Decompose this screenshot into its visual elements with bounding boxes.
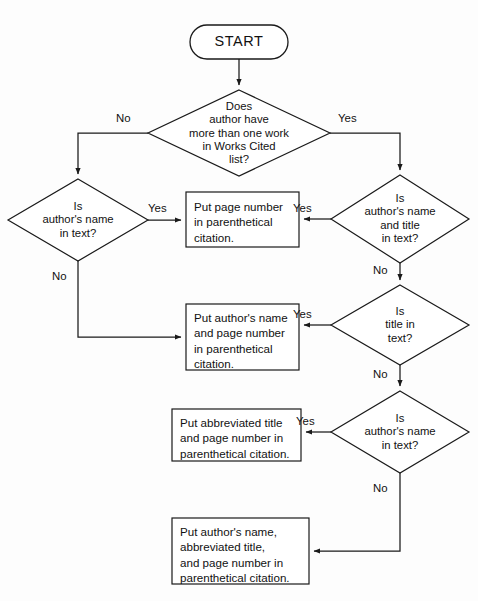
edge-d1-yes-to-d3 [330, 133, 400, 170]
start-terminator-shape [190, 25, 288, 59]
decision-3-shape [331, 175, 469, 263]
decision-1-shape [148, 90, 330, 176]
decision-2-shape [8, 179, 148, 261]
edge-label-d3-yes: Yes [293, 202, 312, 214]
edge-d1-no-to-d2 [78, 133, 148, 174]
edge-label-d5-yes: Yes [296, 415, 315, 427]
edge-label-d3-no: No [373, 264, 388, 276]
edge-label-d4-no: No [373, 368, 388, 380]
flowchart-canvas: START Does author have more than one wor… [0, 0, 478, 601]
edge-label-d1-no: No [116, 112, 131, 124]
edge-label-d5-no: No [373, 482, 388, 494]
process-1-label: Put page number in parenthetical citatio… [194, 199, 298, 245]
process-4-label: Put author's name, abbreviated title, an… [180, 524, 308, 586]
edge-label-d4-yes: Yes [293, 308, 312, 320]
process-3-label: Put abbreviated title and page number in… [180, 415, 300, 461]
process-2-label: Put author's name and page number in par… [194, 310, 298, 372]
decision-4-shape [331, 285, 469, 365]
decision-5-shape [331, 391, 469, 473]
edge-label-d2-yes: Yes [148, 202, 167, 214]
edge-label-d1-yes: Yes [338, 112, 357, 124]
edge-d2-no-to-p2 [78, 261, 181, 337]
edge-label-d2-no: No [52, 270, 67, 282]
flowchart-graphics [0, 0, 478, 601]
